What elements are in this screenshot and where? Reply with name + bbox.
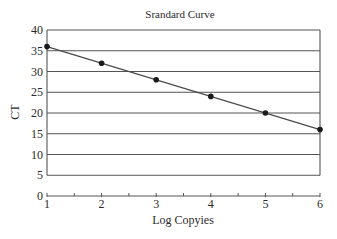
trendline-linear	[47, 47, 320, 130]
x-tick-label: 3	[153, 197, 159, 211]
gridlines	[47, 30, 320, 175]
data-point-marker	[208, 94, 214, 100]
y-tick-label: 30	[31, 65, 43, 79]
y-tick-label: 10	[31, 148, 43, 162]
data-point-marker	[263, 110, 269, 116]
trendline	[47, 47, 320, 130]
x-axis-label: Log Copyies	[152, 213, 214, 227]
data-point-marker	[99, 60, 105, 66]
x-tick-label: 5	[262, 197, 268, 211]
standard-curve-chart: Srandard Curve 0510152025303540 123456 L…	[0, 0, 337, 239]
data-point-marker	[44, 44, 50, 50]
plot-frame	[47, 30, 320, 175]
x-tick-label: 2	[99, 197, 105, 211]
x-axis	[47, 193, 320, 197]
chart-canvas: Srandard Curve 0510152025303540 123456 L…	[0, 0, 337, 239]
data-point-marker	[317, 127, 323, 133]
y-tick-label: 25	[31, 85, 43, 99]
chart-title: Srandard Curve	[145, 8, 214, 20]
y-tick-label: 40	[31, 23, 43, 37]
data-point-marker	[153, 77, 159, 83]
y-tick-label: 0	[37, 189, 43, 203]
y-tick-label: 20	[31, 106, 43, 120]
x-tick-label: 4	[208, 197, 214, 211]
y-axis-tick-labels: 0510152025303540	[31, 23, 43, 203]
x-axis-tick-labels: 123456	[44, 197, 323, 211]
y-tick-label: 15	[31, 127, 43, 141]
x-tick-label: 1	[44, 197, 50, 211]
y-tick-label: 5	[37, 168, 43, 182]
x-tick-label: 6	[317, 197, 323, 211]
y-axis-label: CT	[8, 104, 22, 120]
y-tick-label: 35	[31, 44, 43, 58]
